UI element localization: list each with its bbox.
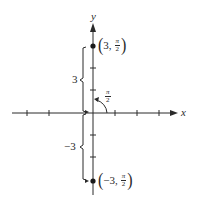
bracket-lower-arrow-icon <box>85 179 89 183</box>
y-axis <box>90 23 96 195</box>
point-marker-upper <box>90 43 95 48</box>
bracket-lower <box>80 114 89 183</box>
x-axis-arrow-icon <box>170 110 178 116</box>
angle-fraction: π 2 <box>105 89 111 104</box>
angle-label: π 2 <box>104 87 112 104</box>
point-lower-theta: π 2 <box>121 173 127 188</box>
bracket-upper-label: 3 <box>72 74 78 85</box>
y-axis-arrow-icon <box>90 23 96 32</box>
point-label-lower: ( −3 , π 2 ) <box>98 172 133 188</box>
y-axis-label: y <box>91 11 96 22</box>
x-axis-label: x <box>181 107 186 118</box>
x-axis <box>12 110 178 116</box>
point-label-upper: ( 3 , π 2 ) <box>98 37 126 53</box>
point-marker-lower <box>90 178 95 183</box>
bracket-lower-label: −3 <box>64 141 76 152</box>
angle-arrow-icon <box>94 97 99 102</box>
point-upper-theta: π 2 <box>115 38 121 53</box>
bracket-upper <box>80 47 89 114</box>
